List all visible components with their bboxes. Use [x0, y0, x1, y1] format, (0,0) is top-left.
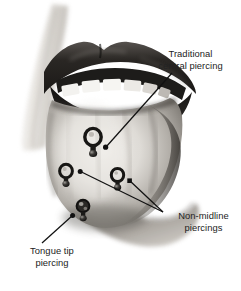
tongue-piercing-figure: Traditional central piercing Non-midline…	[0, 0, 241, 291]
leader-dot	[127, 178, 132, 183]
leader-traditional	[103, 73, 172, 150]
label-non-midline-piercings: Non-midline piercings	[166, 210, 241, 233]
leader-non-midline-left	[78, 169, 163, 212]
label-traditional-central-piercing: Traditional central piercing	[140, 48, 241, 71]
leader-dot	[78, 169, 83, 174]
label-tongue-tip-piercing: Tongue tip piercing	[8, 245, 96, 268]
leader-dot	[70, 213, 75, 218]
leader-tongue-tip	[42, 213, 75, 243]
leader-non-midline-right	[127, 178, 163, 212]
leader-dot	[103, 145, 108, 150]
